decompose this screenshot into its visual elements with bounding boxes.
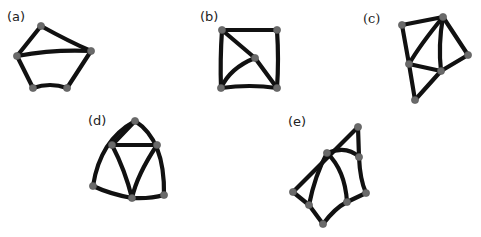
graph-node: [128, 194, 135, 201]
graph-edge: [221, 30, 222, 88]
graph-node: [355, 153, 362, 160]
graph-e-edges: [293, 127, 366, 224]
graph-node: [405, 60, 412, 67]
graph-node: [13, 52, 20, 59]
panel-c: (c): [363, 11, 472, 104]
graph-node: [362, 189, 369, 196]
graph-node: [153, 141, 160, 148]
graph-node: [89, 182, 96, 189]
graph-node: [37, 22, 44, 29]
graph-edge: [221, 58, 255, 88]
graph-edge: [277, 30, 278, 88]
graph-node: [131, 117, 138, 124]
graph-node: [29, 84, 36, 91]
graph-edge: [132, 195, 164, 198]
graph-c-edges: [402, 17, 468, 100]
panel-label-b: (b): [200, 9, 218, 24]
graph-d-edges: [93, 121, 164, 198]
graph-edge: [221, 86, 277, 88]
graph-node: [411, 96, 418, 103]
panel-label-a: (a): [7, 9, 25, 24]
graph-edge: [443, 17, 468, 55]
graph-node: [398, 21, 405, 28]
graph-edge: [132, 145, 157, 198]
graph-node: [319, 220, 326, 227]
graph-edge: [17, 56, 33, 88]
graph-edge: [41, 26, 91, 51]
graph-node: [87, 47, 94, 54]
graph-node: [305, 201, 312, 208]
graph-edge: [327, 153, 347, 202]
graph-node: [218, 26, 225, 33]
graph-node: [273, 26, 280, 33]
graph-node: [323, 149, 330, 156]
graph-node: [354, 123, 361, 130]
graph-edge: [409, 64, 441, 71]
panel-label-c: (c): [363, 11, 380, 26]
panel-label-d: (d): [88, 113, 106, 128]
panel-b: (b): [200, 9, 281, 92]
graph-edge: [112, 145, 132, 198]
graph-node: [343, 198, 350, 205]
graph-edge: [402, 25, 409, 64]
graph-node: [289, 188, 296, 195]
graph-edge: [359, 157, 366, 193]
graph-node: [464, 51, 471, 58]
graph-b-edges: [221, 30, 278, 88]
graph-node: [251, 54, 258, 61]
panel-label-e: (e): [288, 114, 306, 129]
graph-edge: [309, 153, 327, 205]
graph-edge: [67, 51, 91, 88]
graph-edge: [17, 51, 91, 56]
graph-edge: [358, 127, 359, 157]
graph-node: [108, 141, 115, 148]
graph-node: [160, 191, 167, 198]
graph-node: [63, 84, 70, 91]
graph-node: [437, 67, 444, 74]
figure-canvas: (a) (b) (c) (d) (e): [0, 0, 481, 237]
graph-edge: [440, 17, 443, 71]
graph-edge: [441, 55, 468, 71]
graph-edge: [409, 64, 415, 100]
graph-node: [439, 13, 446, 20]
graph-edge: [255, 58, 277, 88]
graph-edge: [33, 85, 67, 88]
panel-e: (e): [288, 114, 370, 228]
graph-a-edges: [17, 26, 91, 88]
panel-a: (a): [7, 9, 95, 92]
graph-node: [217, 84, 224, 91]
graph-edge: [415, 71, 441, 100]
panel-d: (d): [88, 113, 168, 202]
graph-edge: [323, 202, 347, 224]
graph-edge: [93, 186, 132, 198]
graph-node: [273, 84, 280, 91]
graph-edge: [222, 30, 255, 58]
